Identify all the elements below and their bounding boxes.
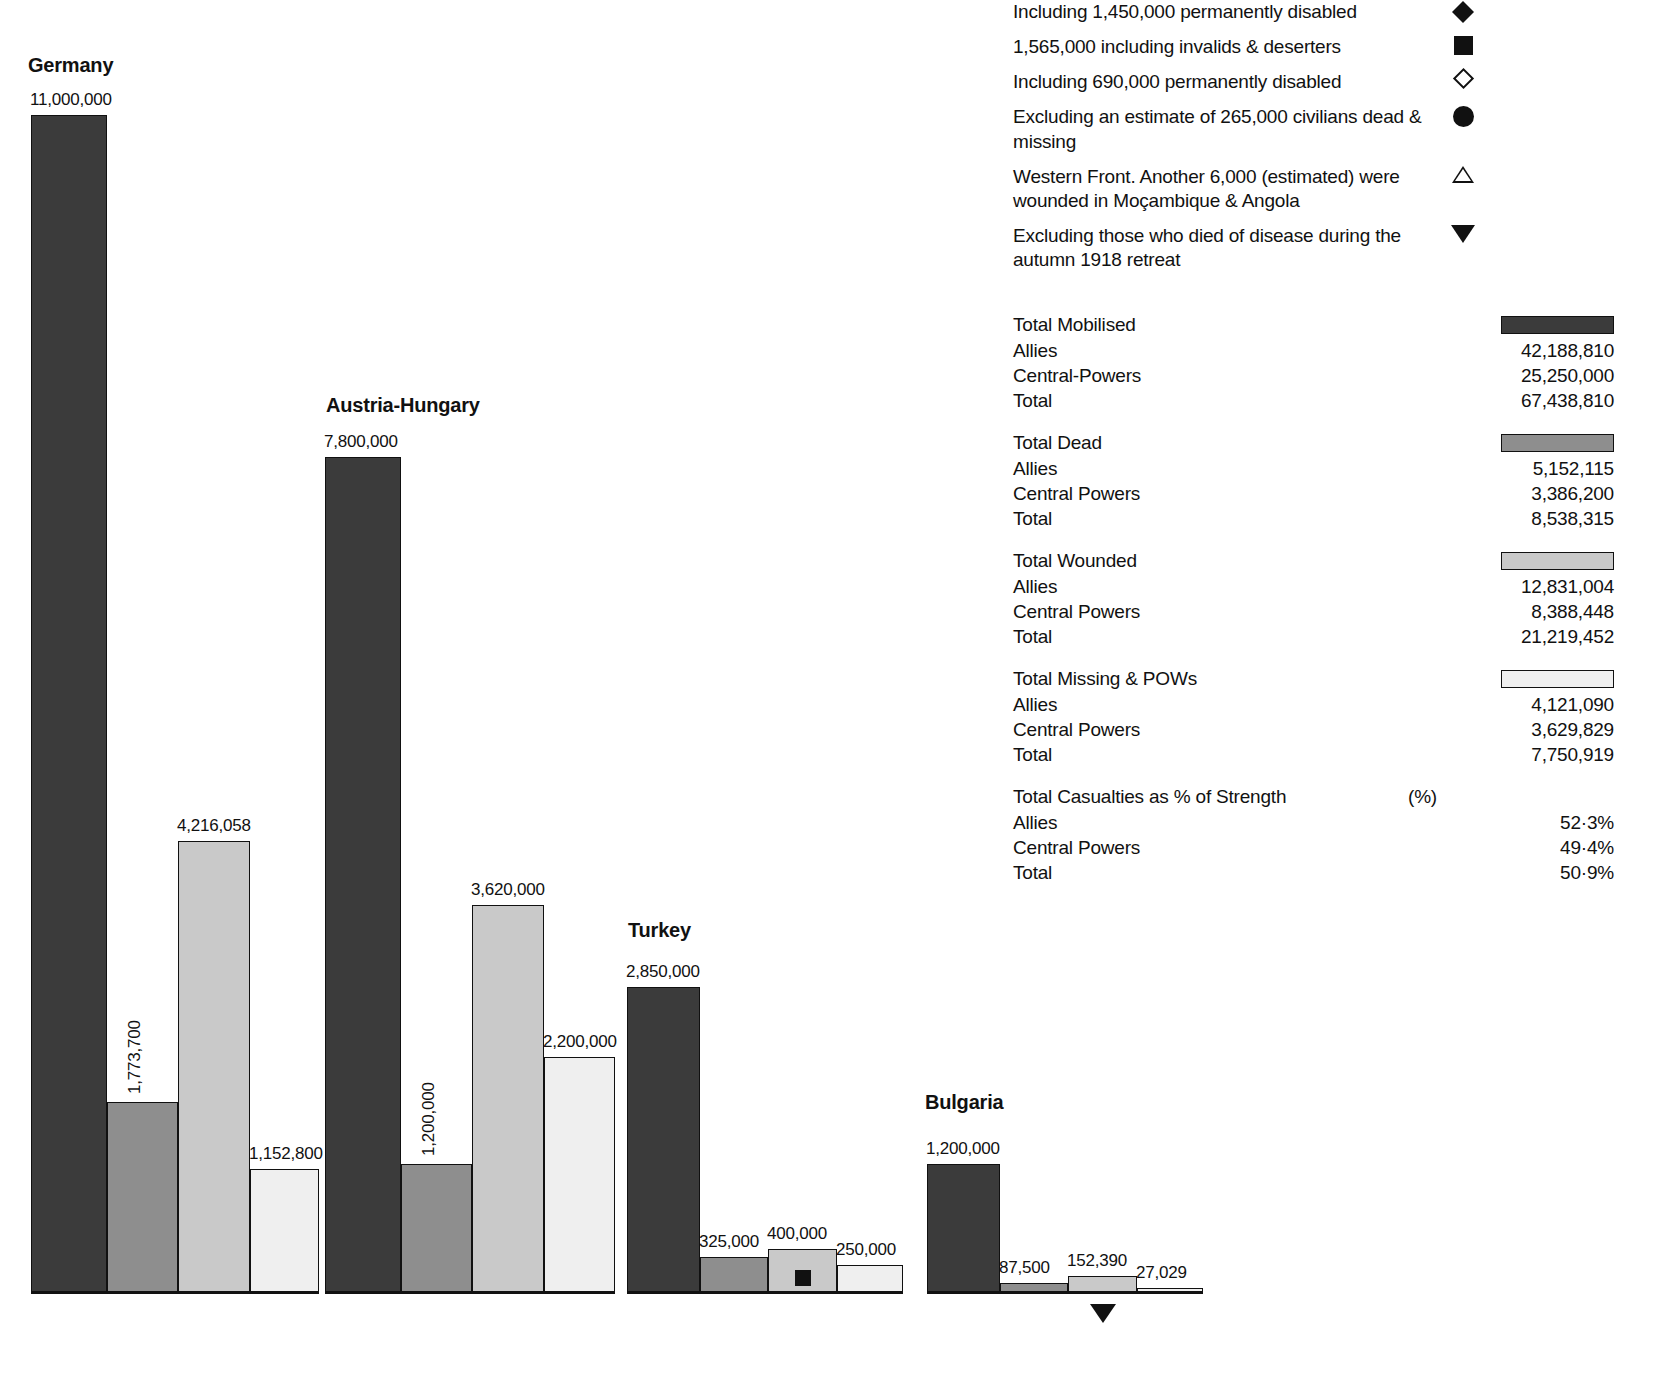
summary-row-label: Central Powers [1013, 483, 1408, 505]
square-filled-icon [1433, 35, 1493, 55]
bar-value-label: 2,200,000 [543, 1032, 617, 1052]
footnote-text: Excluding an estimate of 265,000 civilia… [1013, 105, 1433, 153]
summary-heading-row: Total Missing & POWs [1013, 666, 1633, 692]
bar-austria-hungary-total-wounded [472, 905, 544, 1292]
bar-value-label: 1,773,700 [125, 1020, 145, 1094]
summary-row: Central Powers8,388,448 [1013, 599, 1633, 624]
summary-row: Allies42,188,810 [1013, 338, 1633, 363]
group-baseline [325, 1292, 615, 1294]
bar-austria-hungary-total-missing-pows [544, 1057, 615, 1292]
summary-row: Total8,538,315 [1013, 506, 1633, 531]
summary-row: Allies52·3% [1013, 810, 1633, 835]
summary-row: Central Powers3,629,829 [1013, 717, 1633, 742]
summary-row-value: 12,831,004 [1408, 576, 1633, 598]
bar-austria-hungary-total-mobilised [325, 457, 401, 1292]
summary-row-label: Central Powers [1013, 719, 1408, 741]
footnote-row: Western Front. Another 6,000 (estimated)… [1013, 165, 1633, 213]
bar-turkey-total-mobilised [627, 987, 700, 1292]
bar-germany-total-wounded [178, 841, 250, 1292]
summary-row: Allies5,152,115 [1013, 456, 1633, 481]
summary-heading: Total Dead [1013, 432, 1408, 454]
summary-heading-row: Total Wounded [1013, 548, 1633, 574]
diamond-filled-icon [1433, 0, 1493, 23]
summary-block: Total Casualties as % of Strength(%)Alli… [1013, 784, 1633, 885]
bar-value-label: 1,152,800 [249, 1144, 323, 1164]
square-filled-glyph [1454, 36, 1473, 55]
bar-germany-total-missing-pows [250, 1169, 319, 1292]
bar-germany-total-dead [107, 1102, 178, 1292]
summary-row-label: Total [1013, 862, 1408, 884]
summary-row-value: 49·4% [1408, 837, 1633, 859]
summary-row-value: 3,629,829 [1408, 719, 1633, 741]
summary-heading-row: Total Mobilised [1013, 312, 1633, 338]
summary-block: Total WoundedAllies12,831,004Central Pow… [1013, 548, 1633, 649]
summary-color-swatch [1501, 552, 1614, 570]
summary-row-label: Total [1013, 744, 1408, 766]
summary-row-value: 67,438,810 [1408, 390, 1633, 412]
summary-row: Allies12,831,004 [1013, 574, 1633, 599]
summary-row-label: Total [1013, 390, 1408, 412]
footnote-text: Including 1,450,000 permanently disabled [1013, 0, 1433, 24]
bar-bulgaria-total-dead [1000, 1283, 1068, 1292]
bar-austria-hungary-total-dead [401, 1164, 472, 1292]
summary-heading: Total Wounded [1013, 550, 1408, 572]
summary-row-value: 42,188,810 [1408, 340, 1633, 362]
summary-row-label: Total [1013, 626, 1408, 648]
summary-row: Total67,438,810 [1013, 388, 1633, 413]
country-title-bulgaria: Bulgaria [925, 1091, 1003, 1114]
bar-turkey-total-missing-pows [837, 1265, 903, 1292]
summary-heading-row: Total Casualties as % of Strength(%) [1013, 784, 1633, 810]
summary-row: Central Powers3,386,200 [1013, 481, 1633, 506]
summary-heading-row: Total Dead [1013, 430, 1633, 456]
footnote-text: 1,565,000 including invalids & deserters [1013, 35, 1433, 59]
bar-germany-total-mobilised [31, 115, 107, 1292]
bar-value-label: 250,000 [836, 1240, 896, 1260]
footnote-row: Including 1,450,000 permanently disabled [1013, 0, 1633, 24]
summary-legend-table: Total MobilisedAllies42,188,810Central-P… [1013, 312, 1633, 902]
bar-bulgaria-total-mobilised [927, 1164, 1000, 1292]
summary-row: Total7,750,919 [1013, 742, 1633, 767]
summary-block: Total MobilisedAllies42,188,810Central-P… [1013, 312, 1633, 413]
summary-row: Central Powers49·4% [1013, 835, 1633, 860]
summary-row: Allies4,121,090 [1013, 692, 1633, 717]
summary-block: Total DeadAllies5,152,115Central Powers3… [1013, 430, 1633, 531]
summary-unit: (%) [1408, 786, 1633, 808]
summary-row-value: 4,121,090 [1408, 694, 1633, 716]
summary-row-label: Allies [1013, 458, 1408, 480]
summary-heading: Total Casualties as % of Strength [1013, 786, 1408, 808]
summary-row-value: 8,388,448 [1408, 601, 1633, 623]
summary-row-value: 7,750,919 [1408, 744, 1633, 766]
summary-row-label: Allies [1013, 694, 1408, 716]
summary-row-label: Central-Powers [1013, 365, 1408, 387]
footnote-text: Western Front. Another 6,000 (estimated)… [1013, 165, 1433, 213]
triangle-down-glyph [1451, 225, 1475, 243]
summary-row: Total21,219,452 [1013, 624, 1633, 649]
bar-value-label: 2,850,000 [626, 962, 700, 982]
summary-color-swatch [1501, 670, 1614, 688]
bar-turkey-total-dead [700, 1257, 768, 1292]
chart-canvas: Germany11,000,0001,773,7004,216,0581,152… [0, 0, 1656, 1394]
diamond-filled-glyph [1452, 0, 1474, 12]
bar-value-label: 152,390 [1067, 1251, 1127, 1271]
triangle-down-icon [1433, 224, 1493, 243]
bar-value-label: 7,800,000 [324, 432, 398, 452]
summary-row-value: 3,386,200 [1408, 483, 1633, 505]
group-baseline [31, 1292, 319, 1294]
bar-value-label: 4,216,058 [177, 816, 251, 836]
bar-bulgaria-total-wounded [1068, 1276, 1137, 1292]
summary-row-value: 5,152,115 [1408, 458, 1633, 480]
summary-row-value: 50·9% [1408, 862, 1633, 884]
summary-row-label: Total [1013, 508, 1408, 530]
bar-value-label: 1,200,000 [926, 1139, 1000, 1159]
footnote-legend: Including 1,450,000 permanently disabled… [1013, 0, 1633, 283]
bar-value-label: 325,000 [699, 1232, 759, 1252]
summary-row-label: Allies [1013, 812, 1408, 834]
group-baseline [927, 1292, 1203, 1294]
group-baseline [627, 1292, 903, 1294]
summary-row-value: 52·3% [1408, 812, 1633, 834]
summary-color-swatch [1501, 316, 1614, 334]
bar-value-label: 400,000 [767, 1224, 827, 1244]
footnote-row: Excluding an estimate of 265,000 civilia… [1013, 105, 1633, 153]
summary-row-label: Central Powers [1013, 601, 1408, 623]
country-title-austria-hungary: Austria-Hungary [326, 394, 480, 417]
